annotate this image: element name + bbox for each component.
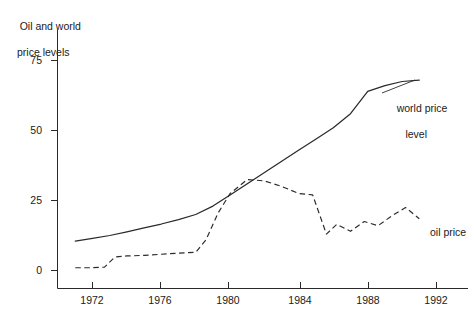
y-axis-ticks: [51, 61, 58, 271]
series-line-oil-price: [75, 180, 419, 268]
plot-area: [0, 0, 474, 325]
x-axis-ticks: [93, 282, 437, 289]
chart-container: Oil and world price levels 75 50 25 0 19…: [0, 0, 474, 325]
series-line-world-price-level: [75, 80, 419, 241]
